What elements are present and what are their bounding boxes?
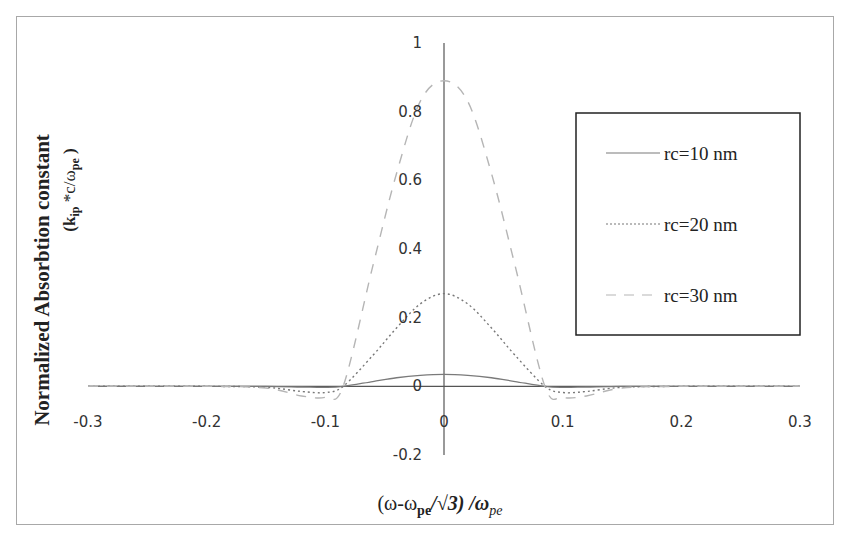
y-tick-label: 0.4 [398, 240, 422, 258]
y-tick-label: 0 [412, 377, 422, 395]
svg-text:rc=30 nm: rc=30 nm [664, 285, 738, 306]
chart-plot: -0.3-0.2-0.100.10.20.310.80.60.40.20-0.2… [0, 0, 852, 544]
y-tick-label: -0.2 [393, 446, 422, 464]
y-axis-label-line2: (kip *c/ωpe ) [60, 148, 82, 231]
x-tick-label: -0.2 [192, 413, 221, 431]
y-axis-label-line1: Normalized Absorbtion constant [30, 134, 54, 426]
x-axis-label: (ω-ωpe/√3) /ωpe [377, 492, 502, 518]
y-tick-label: 0.6 [398, 171, 422, 189]
x-tick-label: 0 [439, 413, 449, 431]
legend: rc=10 nm rc=20 nm rc=30 nm [576, 113, 800, 335]
svg-text:rc=10 nm: rc=10 nm [664, 143, 738, 164]
svg-text:rc=20 nm: rc=20 nm [664, 214, 738, 235]
x-tick-label: 0.2 [669, 413, 693, 431]
y-tick-label: 0.2 [398, 309, 422, 327]
x-tick-label: 0.1 [551, 413, 575, 431]
x-tick-label: 0.3 [788, 413, 812, 431]
y-tick-label: 0.8 [398, 103, 422, 121]
y-axis-label: Normalized Absorbtion constant (kip *c/ω… [30, 134, 82, 426]
x-tick-label: -0.3 [73, 413, 102, 431]
y-tick-label: 1 [412, 34, 422, 52]
x-tick-label: -0.1 [311, 413, 340, 431]
